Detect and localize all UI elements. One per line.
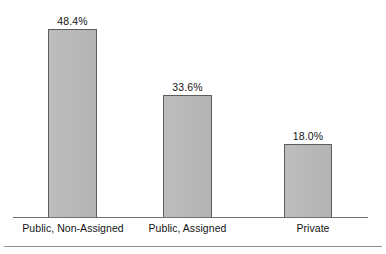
- footer-divider: [4, 246, 382, 247]
- category-label-public-assigned: Public, Assigned: [130, 222, 245, 235]
- bar-rect[interactable]: [284, 144, 332, 218]
- bar-group-0: 48.4%: [48, 0, 97, 218]
- bar-value-label: 48.4%: [57, 15, 87, 27]
- bar-chart: 48.4% 33.6% 18.0% Public, Non-Assigned P…: [0, 0, 386, 254]
- bar-group-2: 18.0%: [284, 0, 332, 218]
- bar-value-label: 33.6%: [172, 81, 202, 93]
- bar-rect[interactable]: [163, 95, 212, 218]
- category-label-public-non-assigned: Public, Non-Assigned: [13, 222, 133, 235]
- category-label-private: Private: [258, 222, 368, 235]
- bar-group-1: 33.6%: [163, 0, 212, 218]
- plot-area: 48.4% 33.6% 18.0%: [0, 0, 386, 218]
- x-axis-line: [13, 217, 368, 218]
- bar-rect[interactable]: [48, 29, 97, 218]
- bar-value-label: 18.0%: [293, 130, 323, 142]
